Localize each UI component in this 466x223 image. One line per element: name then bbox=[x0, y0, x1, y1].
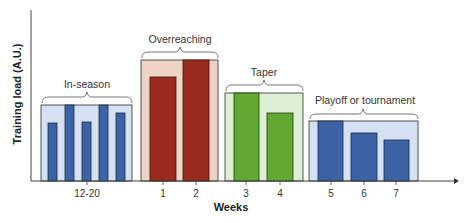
tick-label: 5 bbox=[328, 188, 334, 199]
tick-label: 12-20 bbox=[74, 188, 100, 199]
bar bbox=[82, 122, 91, 181]
tick-label: 6 bbox=[361, 188, 367, 199]
phase-inseason: In-season bbox=[41, 78, 132, 181]
tick-label: 3 bbox=[243, 188, 249, 199]
phase-taper: Taper bbox=[225, 66, 303, 181]
x-axis-arrow-icon bbox=[454, 178, 459, 184]
tick-label: 7 bbox=[393, 188, 399, 199]
phase-label-overreaching: Overreaching bbox=[148, 33, 211, 45]
brace-taper bbox=[226, 80, 303, 91]
bar bbox=[183, 60, 209, 181]
bar bbox=[65, 105, 74, 181]
x-axis-label: Weeks bbox=[206, 201, 256, 213]
phase-overreaching: Overreaching bbox=[141, 33, 218, 181]
phase-label-playoff: Playoff or tournament bbox=[315, 94, 415, 106]
x-tick-labels: 12-20 1 2 3 4 5 6 7 bbox=[74, 188, 399, 199]
bar bbox=[150, 77, 176, 181]
bar bbox=[267, 113, 293, 181]
brace-inseason bbox=[42, 92, 132, 103]
bar bbox=[384, 140, 409, 181]
phase-playoff: Playoff or tournament bbox=[309, 94, 418, 181]
bar bbox=[318, 121, 343, 181]
phase-label-inseason: In-season bbox=[64, 78, 110, 90]
brace-overreaching bbox=[142, 47, 218, 58]
phase-label-taper: Taper bbox=[251, 66, 278, 78]
tick-label: 4 bbox=[277, 188, 283, 199]
tick-label: 2 bbox=[193, 188, 199, 199]
bar bbox=[234, 93, 259, 181]
brace-playoff bbox=[310, 109, 418, 119]
x-ticks bbox=[87, 181, 396, 185]
training-load-chart: In-season Overreaching Taper Playoff or … bbox=[0, 0, 466, 223]
bar bbox=[48, 123, 57, 181]
bar bbox=[351, 133, 377, 181]
bar bbox=[99, 105, 108, 181]
tick-label: 1 bbox=[160, 188, 166, 199]
y-axis-label: Training load (A.U.) bbox=[11, 29, 23, 159]
bar bbox=[116, 113, 125, 181]
